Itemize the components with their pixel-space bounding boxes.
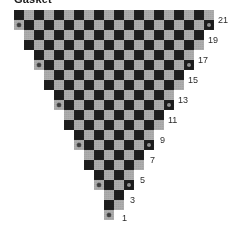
checker-cell — [114, 40, 124, 50]
checker-cell — [124, 100, 134, 110]
checker-cell — [74, 90, 84, 100]
row-label-11: 11 — [168, 116, 177, 125]
checker-cell — [174, 20, 184, 30]
checker-cell — [174, 10, 184, 20]
checker-cell — [84, 140, 94, 150]
checker-cell — [154, 50, 164, 60]
checker-cell — [164, 60, 174, 70]
cell-marker-icon — [97, 183, 101, 187]
checker-cell — [54, 100, 64, 110]
cell-marker-icon — [17, 23, 21, 27]
checker-cell — [134, 10, 144, 20]
row-label-7: 7 — [150, 156, 155, 165]
checker-cell — [194, 10, 204, 20]
checker-cell — [74, 40, 84, 50]
checker-cell — [114, 190, 124, 200]
checker-cell — [84, 80, 94, 90]
checker-cell — [114, 10, 124, 20]
checker-cell — [54, 90, 64, 100]
checker-cell — [24, 30, 34, 40]
checker-cell — [74, 140, 84, 150]
checker-cell — [194, 20, 204, 30]
checker-cell — [74, 30, 84, 40]
checker-cell — [104, 30, 114, 40]
checker-cell — [134, 160, 144, 170]
checker-cell — [104, 20, 114, 30]
checker-cell — [104, 60, 114, 70]
row-label-1: 1 — [122, 214, 127, 223]
checker-cell — [84, 30, 94, 40]
checker-cell — [114, 120, 124, 130]
cell-marker-icon — [187, 63, 191, 67]
checker-cell — [124, 10, 134, 20]
checker-cell — [94, 80, 104, 90]
checker-cell — [144, 20, 154, 30]
checker-cell — [134, 20, 144, 30]
checker-cell — [54, 40, 64, 50]
checker-cell — [144, 60, 154, 70]
checker-cell — [84, 60, 94, 70]
checker-cell — [174, 60, 184, 70]
checker-cell — [94, 180, 104, 190]
checker-cell — [134, 80, 144, 90]
checker-cell — [144, 80, 154, 90]
row-label-15: 15 — [188, 76, 198, 85]
checker-cell — [164, 10, 174, 20]
checker-cell — [124, 20, 134, 30]
checker-cell — [44, 40, 54, 50]
row-label-9: 9 — [160, 136, 165, 145]
checker-cell — [124, 90, 134, 100]
cell-marker-icon — [37, 63, 41, 67]
cell-marker-icon — [107, 213, 111, 217]
checker-cell — [74, 60, 84, 70]
checker-cell — [134, 90, 144, 100]
checker-cell — [134, 110, 144, 120]
checker-cell — [74, 100, 84, 110]
row-label-19: 19 — [208, 36, 218, 45]
checker-cell — [174, 50, 184, 60]
checker-cell — [164, 100, 174, 110]
checker-cell — [154, 100, 164, 110]
checker-cell — [124, 160, 134, 170]
checker-cell — [64, 100, 74, 110]
checker-cell — [124, 140, 134, 150]
checker-cell — [74, 130, 84, 140]
checker-cell — [64, 10, 74, 20]
checker-cell — [164, 40, 174, 50]
checker-cell — [114, 20, 124, 30]
checker-cell — [144, 120, 154, 130]
checker-cell — [114, 30, 124, 40]
checker-cell — [94, 170, 104, 180]
checker-cell — [104, 160, 114, 170]
checker-cell — [94, 160, 104, 170]
checker-cell — [144, 50, 154, 60]
checker-cell — [124, 70, 134, 80]
checker-cell — [34, 50, 44, 60]
checker-cell — [184, 40, 194, 50]
checker-cell — [44, 80, 54, 90]
row-label-5: 5 — [140, 176, 145, 185]
checker-cell — [54, 10, 64, 20]
checker-cell — [124, 80, 134, 90]
checker-cell — [144, 90, 154, 100]
checker-cell — [154, 70, 164, 80]
checker-cell — [124, 50, 134, 60]
checker-cell — [54, 50, 64, 60]
checker-cell — [54, 80, 64, 90]
checker-cell — [144, 10, 154, 20]
cell-marker-icon — [127, 183, 131, 187]
checker-cell — [154, 90, 164, 100]
checker-cell — [124, 110, 134, 120]
checker-cell — [64, 90, 74, 100]
checker-cell — [94, 110, 104, 120]
checker-cell — [184, 20, 194, 30]
checker-cell — [104, 170, 114, 180]
checker-cell — [154, 120, 164, 130]
checker-cell — [154, 110, 164, 120]
checker-cell — [54, 70, 64, 80]
checker-cell — [74, 50, 84, 60]
checker-cell — [84, 90, 94, 100]
checker-cell — [134, 130, 144, 140]
checker-cell — [64, 120, 74, 130]
checker-cell — [194, 40, 204, 50]
